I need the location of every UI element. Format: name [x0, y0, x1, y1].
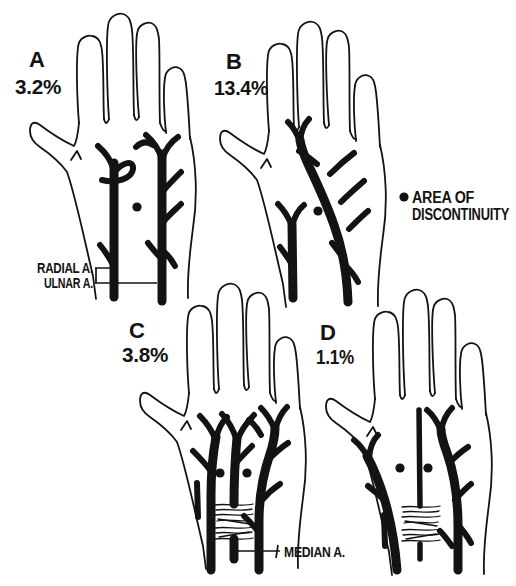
variant-b-percent: 13.4%: [214, 76, 269, 99]
discontinuity-dot-hand-c-left: [215, 468, 224, 477]
palmar-arch-variations-diagram: A 3.2% B 13.4% C 3.8% D 1.1% RADIAL A. U…: [0, 0, 516, 586]
variant-a-percent: 3.2%: [15, 75, 62, 98]
median-artery-label: MEDIAN A.: [284, 543, 345, 560]
variant-b-letter: B: [226, 49, 242, 74]
legend-line1: AREA OF: [412, 189, 474, 206]
discontinuity-dot-hand-d-left: [395, 463, 404, 472]
flexor-retinaculum-hatch-hand-d: [402, 506, 440, 541]
discontinuity-dot-hand-a: [132, 202, 141, 211]
discontinuity-dot-hand-c-right: [242, 468, 251, 477]
legend-area-of-discontinuity: AREA OF DISCONTINUITY: [399, 189, 509, 223]
variant-a-letter: A: [29, 47, 45, 72]
legend-discontinuity-dot-icon: [399, 192, 408, 201]
hand-b-arteries: [278, 119, 368, 302]
variant-c-percent: 3.8%: [122, 343, 169, 366]
variant-d-letter: D: [320, 320, 336, 345]
radial-ulnar-pointer-lines: [95, 268, 157, 283]
hand-a-arteries: [98, 135, 181, 301]
legend-line2: DISCONTINUITY: [412, 206, 510, 223]
hand-b-outline: [220, 22, 386, 307]
variant-c-letter: C: [129, 318, 145, 343]
hand-c-arteries: [193, 407, 288, 570]
hand-d-arteries: [354, 408, 471, 570]
discontinuity-dot-hand-b: [313, 206, 322, 215]
discontinuity-dot-hand-d-right: [423, 463, 432, 472]
ulnar-artery-label: ULNAR A.: [44, 274, 93, 291]
variant-d-percent: 1.1%: [316, 345, 355, 368]
figure-container: A 3.2% B 13.4% C 3.8% D 1.1% RADIAL A. U…: [0, 0, 516, 586]
